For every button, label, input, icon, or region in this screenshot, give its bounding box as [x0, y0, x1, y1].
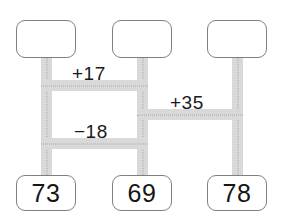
node-bottom-left-value: 73	[32, 181, 61, 206]
diagram-canvas: 73 69 78 +17 +35 −18	[0, 0, 282, 222]
node-bottom-right-value: 78	[223, 181, 252, 206]
node-top-left[interactable]	[16, 20, 76, 58]
node-bottom-middle-value: 69	[128, 181, 157, 206]
edge-label-plus-35: +35	[170, 93, 204, 112]
node-top-right[interactable]	[207, 20, 267, 58]
node-bottom-right[interactable]: 78	[207, 175, 267, 211]
edge-label-plus-17: +17	[72, 64, 106, 83]
edge-label-minus-18: −18	[74, 122, 108, 141]
connector-vertical-left	[41, 56, 52, 177]
node-top-middle[interactable]	[112, 20, 172, 58]
node-bottom-middle[interactable]: 69	[112, 175, 172, 211]
node-bottom-left[interactable]: 73	[16, 175, 76, 211]
